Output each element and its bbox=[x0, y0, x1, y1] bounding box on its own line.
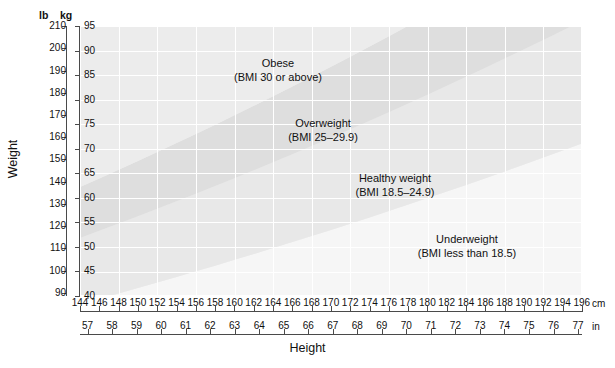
cm-tick-label: 188 bbox=[496, 298, 513, 308]
kg-tick-mark bbox=[75, 247, 80, 248]
cm-tick-label: 166 bbox=[284, 298, 301, 308]
cm-tick-label: 194 bbox=[554, 298, 571, 308]
kg-tick-label: 80 bbox=[84, 95, 95, 105]
gridline-horizontal bbox=[80, 295, 582, 296]
gridline-vertical bbox=[157, 26, 158, 296]
in-tick-label: 60 bbox=[156, 321, 167, 331]
lb-tick-label: 90 bbox=[55, 288, 66, 298]
band-label-healthy-line1: Healthy weight bbox=[359, 172, 431, 184]
band-label-underweight: Underweight (BMI less than 18.5) bbox=[367, 232, 567, 260]
cm-tick-label: 168 bbox=[303, 298, 320, 308]
x-axis-title: Height bbox=[0, 341, 615, 355]
band-label-overweight-line1: Overweight bbox=[295, 117, 351, 129]
lb-tick-label: 110 bbox=[50, 243, 66, 253]
kg-tick-label: 45 bbox=[84, 266, 95, 276]
kg-tick-mark bbox=[75, 149, 80, 150]
in-tick-label: 71 bbox=[425, 321, 436, 331]
kg-tick-mark bbox=[75, 271, 80, 272]
cm-tick-label: 162 bbox=[245, 298, 262, 308]
cm-tick-label: 192 bbox=[535, 298, 552, 308]
kg-tick-mark bbox=[75, 100, 80, 101]
gridline-horizontal bbox=[80, 272, 582, 273]
in-tick-label: 72 bbox=[450, 321, 461, 331]
gridline-horizontal bbox=[80, 100, 582, 101]
in-tick-label: 64 bbox=[254, 321, 265, 331]
lb-tick-label: 180 bbox=[49, 88, 66, 98]
lb-tick-label: 140 bbox=[49, 177, 66, 187]
in-tick-label: 74 bbox=[499, 321, 510, 331]
lb-axis-line bbox=[66, 26, 67, 296]
cm-tick-label: 182 bbox=[438, 298, 455, 308]
cm-tick-label: 184 bbox=[458, 298, 475, 308]
cm-unit-label: cm bbox=[592, 298, 605, 309]
lb-tick-label: 190 bbox=[49, 66, 66, 76]
cm-tick-label: 172 bbox=[342, 298, 359, 308]
cm-tick-label: 158 bbox=[207, 298, 224, 308]
cm-tick-label: 180 bbox=[419, 298, 436, 308]
cm-tick-label: 174 bbox=[361, 298, 378, 308]
cm-tick-label: 160 bbox=[226, 298, 243, 308]
kg-tick-label: 75 bbox=[84, 119, 95, 129]
kg-tick-label: 60 bbox=[84, 193, 95, 203]
in-tick-label: 69 bbox=[376, 321, 387, 331]
lb-tick-label: 100 bbox=[49, 266, 66, 276]
kg-tick-mark bbox=[75, 173, 80, 174]
cm-tick-label: 170 bbox=[323, 298, 340, 308]
in-tick-label: 59 bbox=[131, 321, 142, 331]
kg-tick-label: 65 bbox=[84, 168, 95, 178]
cm-tick-label: 178 bbox=[400, 298, 417, 308]
in-tick-label: 73 bbox=[474, 321, 485, 331]
gridline-horizontal bbox=[80, 149, 582, 150]
in-axis-line bbox=[80, 334, 582, 335]
lb-tick-label: 150 bbox=[49, 154, 66, 164]
cm-tick-label: 156 bbox=[187, 298, 204, 308]
band-label-overweight-line2: (BMI 25–29.9) bbox=[223, 130, 423, 144]
lb-tick-label: 210 bbox=[49, 21, 66, 31]
kg-axis-line bbox=[79, 26, 80, 296]
in-tick-label: 65 bbox=[278, 321, 289, 331]
gridline-horizontal bbox=[80, 51, 582, 52]
band-label-obese: Obese (BMI 30 or above) bbox=[178, 56, 378, 84]
in-tick-label: 66 bbox=[303, 321, 314, 331]
in-tick-label: 67 bbox=[327, 321, 338, 331]
kg-tick-mark bbox=[75, 124, 80, 125]
cm-tick-label: 186 bbox=[477, 298, 494, 308]
in-tick-label: 58 bbox=[106, 321, 117, 331]
kg-tick-mark bbox=[75, 75, 80, 76]
cm-tick-label: 154 bbox=[168, 298, 185, 308]
band-label-obese-line1: Obese bbox=[262, 57, 294, 69]
gridline-vertical bbox=[80, 26, 81, 296]
band-label-healthy-line2: (BMI 18.5–24.9) bbox=[295, 185, 495, 199]
in-tick-label: 68 bbox=[352, 321, 363, 331]
lb-tick-label: 170 bbox=[49, 110, 66, 120]
band-label-overweight: Overweight (BMI 25–29.9) bbox=[223, 116, 423, 144]
lb-tick-label: 200 bbox=[49, 43, 66, 53]
cm-tick-label: 164 bbox=[265, 298, 282, 308]
in-tick-label: 61 bbox=[180, 321, 191, 331]
band-label-healthy: Healthy weight (BMI 18.5–24.9) bbox=[295, 171, 495, 199]
cm-tick-label: 196 bbox=[573, 298, 590, 308]
in-tick-label: 76 bbox=[548, 321, 559, 331]
gridline-vertical bbox=[119, 26, 120, 296]
kg-tick-label: 85 bbox=[84, 70, 95, 80]
in-tick-label: 75 bbox=[523, 321, 534, 331]
lb-tick-label: 130 bbox=[49, 199, 66, 209]
kg-tick-mark bbox=[75, 222, 80, 223]
band-label-obese-line2: (BMI 30 or above) bbox=[178, 70, 378, 84]
cm-tick-label: 146 bbox=[91, 298, 108, 308]
cm-tick-label: 150 bbox=[130, 298, 147, 308]
lb-unit-header: lb bbox=[39, 9, 48, 21]
kg-tick-mark bbox=[75, 198, 80, 199]
cm-tick-label: 152 bbox=[149, 298, 166, 308]
kg-tick-label: 95 bbox=[84, 21, 95, 31]
bmi-chart: Obese (BMI 30 or above) Overweight (BMI … bbox=[0, 0, 615, 368]
kg-tick-label: 55 bbox=[84, 217, 95, 227]
cm-tick-label: 144 bbox=[72, 298, 89, 308]
cm-tick-label: 176 bbox=[380, 298, 397, 308]
band-label-underweight-line2: (BMI less than 18.5) bbox=[367, 246, 567, 260]
in-tick-label: 62 bbox=[205, 321, 216, 331]
cm-tick-label: 190 bbox=[516, 298, 533, 308]
kg-tick-mark bbox=[75, 26, 80, 27]
in-tick-label: 77 bbox=[572, 321, 583, 331]
in-tick-label: 70 bbox=[401, 321, 412, 331]
